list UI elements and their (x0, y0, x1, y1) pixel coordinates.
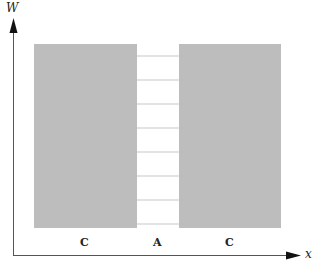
region-middle-label: A (153, 236, 162, 249)
y-axis-label: W (6, 1, 18, 15)
region-left-label: C (80, 236, 89, 249)
x-axis-arrow-icon (286, 252, 301, 260)
region-right-c (179, 44, 281, 228)
y-axis-arrow-icon (10, 18, 18, 33)
middle-rungs (137, 56, 179, 224)
region-left-c (34, 44, 137, 228)
region-right-label: C (225, 236, 234, 249)
x-axis-label: x (305, 247, 312, 261)
diagram-canvas (0, 0, 319, 265)
